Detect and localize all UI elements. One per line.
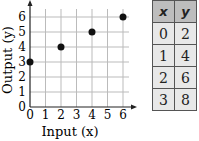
table-cell: 2	[175, 23, 197, 45]
data-point	[27, 59, 34, 66]
svg-text:3: 3	[73, 108, 81, 122]
table-body: 02142638	[153, 23, 197, 111]
table-header-cell: y	[175, 1, 197, 23]
table-cell: 4	[175, 45, 197, 67]
scatter-plot: 01234560123456 Input (x) Output (y)	[0, 0, 150, 141]
table-cell: 3	[153, 89, 175, 111]
svg-text:0: 0	[18, 100, 26, 114]
table-header-cell: x	[153, 1, 175, 23]
table-header-row: xy	[153, 1, 197, 23]
table-row: 38	[153, 89, 197, 111]
svg-text:4: 4	[18, 40, 26, 54]
table-cell: 8	[175, 89, 197, 111]
svg-text:4: 4	[88, 108, 96, 122]
y-axis-label: Output (y)	[0, 26, 15, 94]
svg-text:3: 3	[18, 55, 26, 69]
data-point	[89, 29, 96, 36]
tick-labels: 01234560123456	[18, 10, 126, 122]
grid-lines	[30, 9, 129, 107]
table-cell: 6	[175, 67, 197, 89]
svg-text:2: 2	[57, 108, 65, 122]
svg-text:1: 1	[42, 108, 50, 122]
svg-text:2: 2	[18, 70, 26, 84]
table-row: 26	[153, 67, 197, 89]
svg-text:1: 1	[18, 85, 26, 99]
table-cell: 2	[153, 67, 175, 89]
table-row: 14	[153, 45, 197, 67]
x-axis-label: Input (x)	[41, 124, 98, 139]
svg-text:5: 5	[104, 108, 112, 122]
svg-text:6: 6	[119, 108, 127, 122]
data-point	[120, 14, 127, 21]
xy-table: xy 02142638	[152, 0, 197, 111]
svg-text:5: 5	[18, 25, 26, 39]
data-point	[58, 44, 65, 51]
table-row: 02	[153, 23, 197, 45]
svg-text:6: 6	[18, 10, 26, 24]
table-cell: 1	[153, 45, 175, 67]
table-cell: 0	[153, 23, 175, 45]
svg-text:0: 0	[26, 108, 34, 122]
